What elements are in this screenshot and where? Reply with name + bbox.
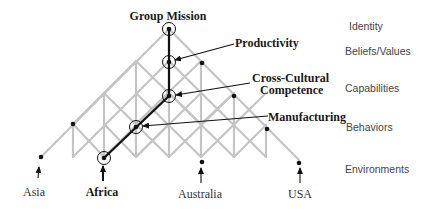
arrow-cross-cultural [176,83,250,95]
environment-arrows [38,166,300,183]
label-africa: Africa [86,185,119,199]
dot-usa [297,161,302,166]
level-behaviors: Behaviors [346,121,393,133]
dot-right-behaviors [265,127,270,132]
label-cross-cultural-line2: Competence [260,83,324,97]
logical-levels-diagram: Group Mission Productivity Cross-Cultura… [0,0,425,209]
dot-asia [39,155,44,160]
arrow-asia [38,167,39,178]
level-beliefs-values: Beliefs/Values [345,45,411,57]
level-capabilities: Capabilities [345,82,399,94]
dot-right-beliefs [200,61,205,66]
label-usa: USA [288,187,312,201]
level-environments: Environments [345,163,409,175]
label-manufacturing: Manufacturing [268,110,346,124]
label-productivity: Productivity [235,36,299,50]
dot-left-behavior [71,122,76,127]
label-asia: Asia [23,185,46,199]
label-australia: Australia [178,187,223,201]
level-identity: Identity [349,20,384,32]
label-group-mission: Group Mission [130,9,207,23]
dot-right-capabilities [232,94,237,99]
dot-australia [200,160,205,165]
arrow-productivity [175,44,234,60]
